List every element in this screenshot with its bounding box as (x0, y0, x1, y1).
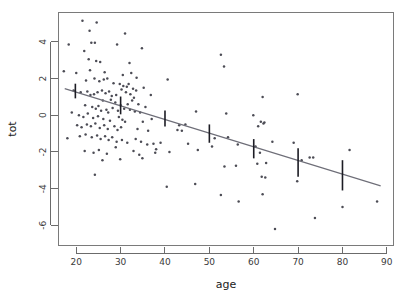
data-point (223, 165, 226, 168)
data-point (376, 200, 379, 203)
scatter-plot-figure: 420-2-4-6 2030405060708090 age tot (0, 0, 414, 297)
x-tick-label: 70 (292, 257, 304, 267)
data-point (123, 108, 126, 111)
data-point (104, 92, 107, 95)
data-point (118, 116, 121, 119)
data-point (81, 20, 84, 23)
data-point (121, 139, 124, 142)
data-point (90, 125, 93, 128)
data-point (128, 62, 131, 65)
data-point (264, 176, 267, 179)
data-point (103, 124, 106, 127)
y-tick-label: -6 (38, 221, 48, 230)
data-point (96, 134, 99, 137)
data-point (126, 86, 128, 89)
data-point (113, 125, 116, 128)
data-point (142, 86, 145, 89)
data-point (252, 114, 255, 117)
data-point (115, 141, 118, 144)
data-point (116, 129, 119, 132)
data-point (168, 151, 171, 154)
data-point (111, 107, 114, 110)
data-point (137, 103, 140, 106)
data-point (95, 21, 98, 24)
data-point (99, 138, 102, 141)
data-point (71, 111, 74, 114)
data-point (195, 110, 198, 113)
data-point (80, 126, 83, 128)
y-tick-label: 2 (38, 76, 48, 82)
data-point (132, 87, 135, 90)
data-point (150, 118, 153, 121)
data-point (235, 164, 238, 167)
data-point (101, 89, 104, 92)
data-point (152, 142, 155, 145)
data-point (154, 152, 157, 155)
data-point (260, 120, 263, 123)
data-point (261, 193, 264, 196)
data-point (150, 94, 153, 97)
data-point (85, 79, 88, 82)
data-point (265, 162, 268, 165)
x-tick-label: 20 (71, 257, 83, 267)
data-point (103, 78, 106, 81)
data-point (257, 125, 260, 128)
data-point (93, 93, 96, 96)
data-point (197, 149, 200, 152)
data-point (122, 74, 125, 77)
data-point (260, 175, 263, 178)
data-point (120, 88, 123, 91)
data-point (138, 153, 141, 156)
data-point (87, 58, 90, 61)
x-tick-label: 80 (337, 257, 349, 267)
data-point (146, 143, 149, 146)
data-point (122, 85, 125, 88)
data-point (220, 194, 223, 197)
data-point (102, 118, 105, 121)
data-point (97, 105, 100, 108)
data-point (110, 95, 113, 98)
data-point (129, 93, 132, 96)
data-point (126, 103, 128, 106)
data-point (93, 77, 96, 80)
data-point (99, 61, 102, 64)
data-point (136, 128, 139, 131)
data-point (225, 112, 228, 115)
data-point (274, 228, 277, 231)
data-point (135, 89, 138, 92)
data-point (99, 127, 102, 130)
x-tick-label: 40 (159, 257, 171, 267)
x-axis-title: age (216, 278, 237, 291)
data-point (86, 123, 89, 126)
data-point (124, 120, 127, 123)
x-tick-label: 60 (248, 257, 260, 267)
data-point (96, 91, 99, 94)
data-point (147, 130, 150, 133)
data-point (111, 136, 114, 139)
data-point (88, 30, 91, 33)
data-point (348, 149, 351, 152)
data-point (166, 186, 169, 189)
data-point (106, 153, 109, 156)
data-point (127, 83, 130, 86)
data-point (97, 115, 100, 118)
data-point (84, 133, 87, 136)
plot-canvas: 420-2-4-6 2030405060708090 age tot (0, 0, 414, 297)
y-tick-label: 4 (38, 39, 48, 45)
data-point (144, 106, 147, 109)
data-point (107, 128, 110, 131)
data-point (121, 119, 124, 122)
data-point (91, 136, 94, 139)
data-point (271, 141, 274, 144)
data-point (132, 150, 135, 153)
data-point (135, 76, 138, 79)
data-point (86, 90, 89, 93)
data-point (292, 142, 295, 145)
data-point (94, 42, 97, 45)
data-point (142, 120, 145, 123)
data-point (94, 174, 97, 177)
data-point (166, 78, 169, 81)
data-point (213, 137, 216, 140)
data-point (107, 111, 110, 114)
x-tick-label: 90 (381, 257, 393, 267)
